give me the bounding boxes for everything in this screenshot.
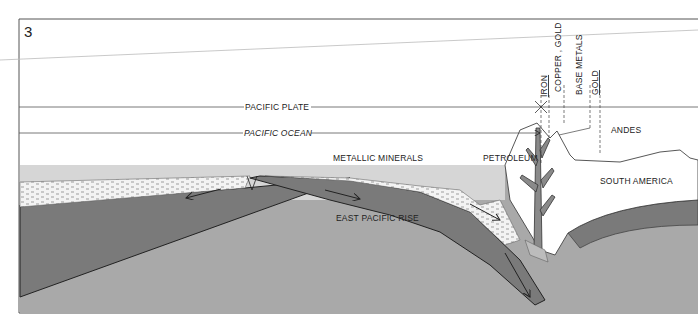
reference-lines — [19, 107, 698, 133]
subduction-diagram: 3 PACIFIC PLATE PACIFIC OCEAN METALLIC M… — [0, 0, 698, 329]
label-pacific-plate: PACIFIC PLATE — [245, 102, 309, 112]
label-gold: GOLD — [590, 70, 600, 95]
label-iron: IRON — [539, 75, 549, 97]
label-andes: ANDES — [611, 125, 641, 135]
label-pacific-ocean: PACIFIC OCEAN — [244, 128, 313, 138]
label-south-america: SOUTH AMERICA — [600, 176, 673, 186]
background-guide-line — [0, 30, 698, 60]
label-east-pacific-rise: EAST PACIFIC RISE — [336, 213, 419, 223]
label-base-metals: BASE METALS — [574, 34, 584, 95]
label-copper-gold: COPPER , GOLD — [553, 22, 563, 92]
andes-leader-line — [559, 128, 590, 135]
label-metallic-minerals: METALLIC MINERALS — [333, 153, 423, 163]
label-petroleum: PETROLEUM — [483, 153, 538, 163]
figure-number: 3 — [24, 23, 32, 40]
